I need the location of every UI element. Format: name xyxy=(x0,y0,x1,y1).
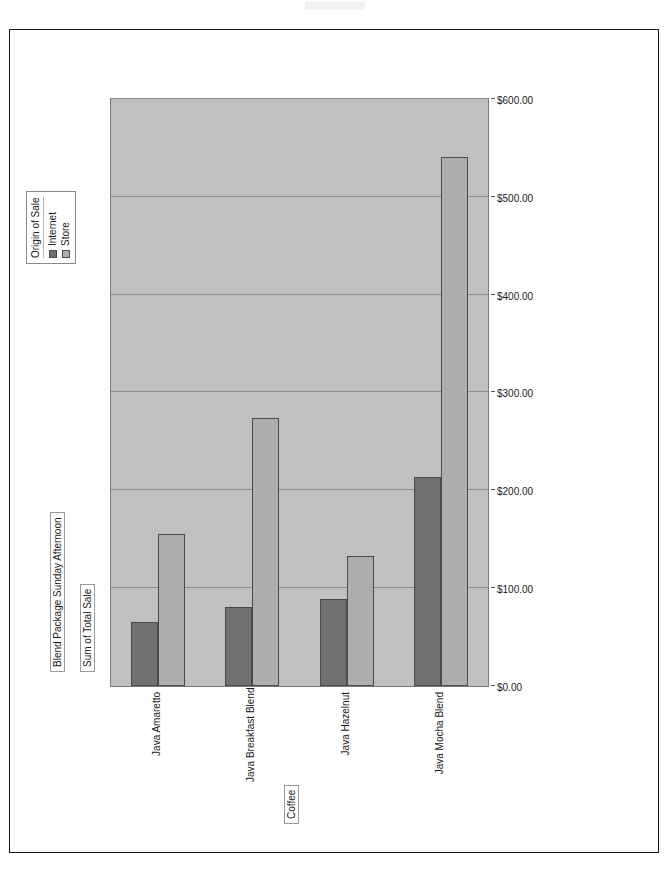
bar-internet[interactable] xyxy=(414,477,441,686)
bar-store[interactable] xyxy=(441,157,468,686)
legend-title: Origin of Sale xyxy=(30,197,44,258)
bar-group xyxy=(111,99,205,686)
category-label: Java Mocha Blend xyxy=(434,692,445,782)
category-label: Java Amaretto xyxy=(151,692,162,782)
value-tick-label: $300.00 xyxy=(497,389,533,400)
value-tick-label: $600.00 xyxy=(497,95,533,106)
value-tick xyxy=(491,489,495,490)
value-axis: $600.00$500.00$400.00$300.00$200.00$100.… xyxy=(491,96,571,687)
value-tick-label: $200.00 xyxy=(497,486,533,497)
legend-entry-label: Store xyxy=(60,222,71,246)
value-tick xyxy=(491,98,495,99)
value-tick xyxy=(491,294,495,295)
value-tick-label: $500.00 xyxy=(497,193,533,204)
bar-store[interactable] xyxy=(158,534,185,686)
bar-group xyxy=(205,99,299,686)
plot-area xyxy=(110,98,489,687)
value-tick-label: $100.00 xyxy=(497,584,533,595)
category-label: Java Hazelnut xyxy=(340,692,351,782)
bar-internet[interactable] xyxy=(320,599,347,686)
value-tick xyxy=(491,587,495,588)
bar-store[interactable] xyxy=(252,418,279,686)
legend-entries: InternetStore xyxy=(47,197,71,258)
bar-group xyxy=(300,99,394,686)
category-label: Java Breakfast Blend xyxy=(245,692,256,782)
bar-internet[interactable] xyxy=(131,622,158,686)
legend: Origin of Sale InternetStore xyxy=(26,191,76,264)
bar-store[interactable] xyxy=(347,556,374,686)
value-axis-title: Sum of Total Sale xyxy=(80,584,95,672)
value-tick xyxy=(491,392,495,393)
value-tick xyxy=(491,196,495,197)
category-axis-title: Coffee xyxy=(284,785,299,824)
value-tick-label: $400.00 xyxy=(497,291,533,302)
legend-swatch-icon xyxy=(62,250,70,258)
value-tick-label: $0.00 xyxy=(497,682,522,693)
rotated-chart-container: Blend Package Sunday Afternoon Sum of To… xyxy=(0,0,669,883)
legend-swatch-icon xyxy=(49,250,57,258)
legend-entry[interactable]: Internet xyxy=(47,197,58,258)
chart-title: Blend Package Sunday Afternoon xyxy=(50,512,65,672)
legend-entry-label: Internet xyxy=(47,212,58,246)
bar-group xyxy=(394,99,488,686)
chart-canvas: Blend Package Sunday Afternoon Sum of To… xyxy=(34,42,634,842)
bar-internet[interactable] xyxy=(225,607,252,686)
legend-entry[interactable]: Store xyxy=(60,197,71,258)
value-tick xyxy=(491,685,495,686)
